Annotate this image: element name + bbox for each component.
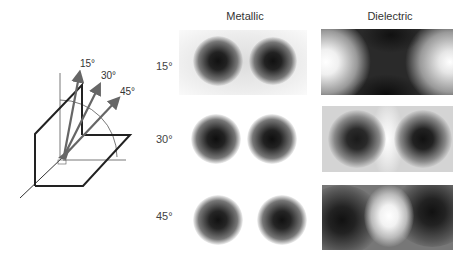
column-title-metallic: Metallic (210, 10, 280, 22)
dielectric-45-image (322, 185, 453, 250)
metallic-15-image (179, 30, 307, 95)
incident-arrows (58, 76, 116, 160)
row-label-45: 45° (156, 210, 173, 222)
arrow-label-15: 15° (80, 58, 95, 69)
arrow-label-30: 30° (101, 70, 116, 81)
incidence-angle-diagram: 15° 30° 45° (0, 0, 170, 262)
row-label-15: 15° (156, 60, 173, 72)
dielectric-30-image (322, 106, 453, 172)
row-label-30: 30° (156, 133, 173, 145)
column-title-dielectric: Dielectric (350, 10, 430, 22)
dielectric-15-image (321, 29, 453, 95)
metallic-30-image (179, 106, 307, 172)
arrow-label-45: 45° (120, 86, 135, 97)
metallic-45-image (179, 185, 307, 251)
